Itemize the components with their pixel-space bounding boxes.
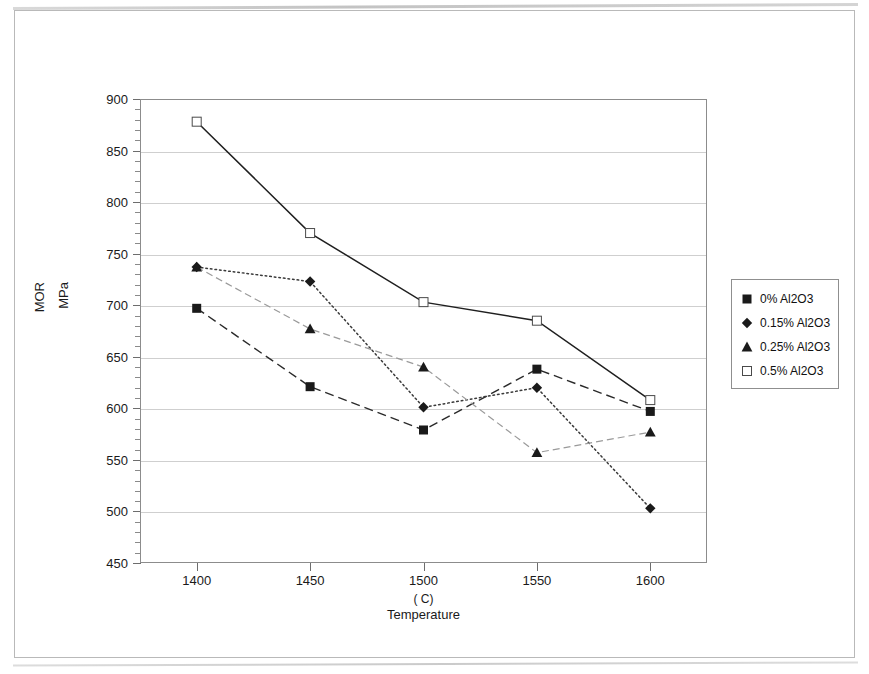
open-square-marker <box>192 117 201 126</box>
filled-diamond-marker <box>645 503 655 513</box>
open-square-marker <box>743 367 752 376</box>
line-chart-figure: MOR MPa 900850800750700650600550500450 1… <box>0 0 869 674</box>
legend-item-1[interactable]: 0.15% Al2O3 <box>732 311 838 335</box>
chart-legend: 0% Al2O30.15% Al2O30.25% Al2O30.5% Al2O3 <box>731 279 839 389</box>
filled-triangle-marker <box>645 427 656 437</box>
open-square-marker <box>646 396 655 405</box>
filled-square-icon <box>740 292 754 306</box>
filled-diamond-marker <box>418 402 428 412</box>
filled-diamond-icon <box>740 316 754 330</box>
open-square-marker <box>306 229 315 238</box>
series-0-5-al2o3 <box>192 117 655 404</box>
legend-item-2[interactable]: 0.25% Al2O3 <box>732 335 838 359</box>
open-square-marker <box>532 316 541 325</box>
series-line <box>197 267 651 453</box>
legend-label: 0.25% Al2O3 <box>760 340 830 354</box>
legend-label: 0% Al2O3 <box>760 292 813 306</box>
series-line <box>197 122 651 400</box>
legend-item-3[interactable]: 0.5% Al2O3 <box>732 359 838 383</box>
filled-square-marker <box>743 295 752 304</box>
filled-triangle-marker <box>532 447 543 457</box>
filled-triangle-icon <box>740 340 754 354</box>
legend-label: 0.5% Al2O3 <box>760 364 823 378</box>
filled-diamond-marker <box>532 383 542 393</box>
filled-triangle-marker <box>418 362 429 372</box>
filled-square-marker <box>532 365 541 374</box>
legend-label: 0.15% Al2O3 <box>760 316 830 330</box>
open-square-icon <box>740 364 754 378</box>
filled-triangle-marker <box>742 342 753 352</box>
open-square-marker <box>419 298 428 307</box>
filled-diamond-marker <box>742 318 752 328</box>
filled-square-marker <box>419 425 428 434</box>
filled-square-marker <box>646 407 655 416</box>
filled-triangle-marker <box>305 324 316 334</box>
filled-square-marker <box>306 382 315 391</box>
legend-item-0[interactable]: 0% Al2O3 <box>732 287 838 311</box>
filled-square-marker <box>192 304 201 313</box>
